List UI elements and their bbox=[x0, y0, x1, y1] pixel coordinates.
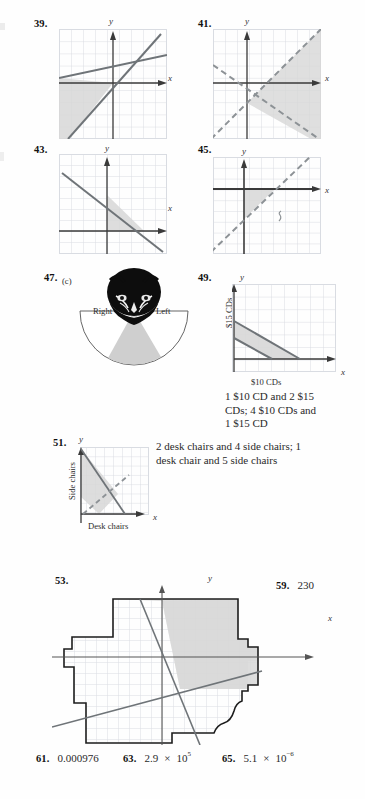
answer-65-base: 10 bbox=[275, 752, 286, 764]
exercise-number-39: 39. bbox=[34, 18, 47, 29]
graph-49 bbox=[232, 284, 336, 372]
label-right-47: Right bbox=[93, 306, 112, 316]
axis-label-x-45: x bbox=[325, 185, 329, 195]
axis-label-x-41: x bbox=[325, 73, 329, 83]
axis-label-x-53: x bbox=[328, 613, 332, 623]
exercise-number-45: 45. bbox=[198, 144, 211, 155]
label-left-47: Left bbox=[156, 306, 170, 316]
answer-63-mantissa: 2.9 bbox=[144, 752, 158, 764]
answer-49-line2: CDs; 4 $10 CDs and bbox=[225, 404, 360, 418]
answer-51-line1: 2 desk chairs and 4 side chairs; 1 bbox=[156, 440, 362, 454]
exercise-number-51: 51. bbox=[53, 437, 66, 448]
multiplication-sign-63: × bbox=[164, 752, 170, 764]
answer-51-line2: desk chair and 5 side chairs bbox=[156, 454, 362, 468]
exercise-number-43: 43. bbox=[34, 144, 47, 155]
multiplication-sign-65: × bbox=[263, 752, 269, 764]
axis-label-x-39: x bbox=[168, 73, 172, 83]
exercise-number-65: 65. bbox=[222, 753, 235, 764]
exercise-59: 59. 230 bbox=[276, 575, 314, 593]
exercise-number-61: 61. bbox=[36, 753, 49, 764]
y-caption-51: Side chairs bbox=[67, 462, 77, 500]
x-caption-49: $10 CDs bbox=[251, 377, 281, 387]
edge-mark-top bbox=[0, 23, 5, 30]
x-caption-51: Desk chairs bbox=[88, 521, 128, 531]
axis-label-y-53: y bbox=[208, 573, 212, 583]
answer-49-line3: 1 $15 CD bbox=[225, 417, 360, 431]
graph-39 bbox=[59, 29, 167, 139]
exercise-number-41: 41. bbox=[198, 18, 211, 29]
axis-label-y-41: y bbox=[245, 16, 249, 26]
axis-label-y-39: y bbox=[109, 16, 113, 26]
exercise-number-63: 63. bbox=[123, 753, 136, 764]
edge-mark-middle bbox=[0, 152, 4, 161]
axis-label-y-45: y bbox=[242, 146, 246, 156]
answer-49-line1: 1 $10 CD and 2 $15 bbox=[225, 390, 360, 404]
answer-65-mantissa: 5.1 bbox=[243, 752, 257, 764]
graph-41 bbox=[213, 29, 321, 139]
answer-51: 2 desk chairs and 4 side chairs; 1 desk … bbox=[156, 440, 362, 467]
axis-label-x-51: x bbox=[153, 512, 157, 522]
exercise-number-47: 47. bbox=[44, 272, 57, 283]
exercise-61: 61. 0.000976 bbox=[36, 748, 99, 766]
axis-label-x-49: x bbox=[341, 367, 345, 377]
graph-53 bbox=[52, 585, 314, 745]
answer-49: 1 $10 CD and 2 $15 CDs; 4 $10 CDs and 1 … bbox=[225, 390, 360, 431]
exercise-63: 63. 2.9 × 105 bbox=[123, 748, 191, 766]
axis-label-y-51: y bbox=[79, 434, 83, 444]
answer-key-page: 39. y x 41. y x bbox=[0, 0, 365, 799]
graph-45 bbox=[213, 157, 321, 254]
answer-65-exponent: −6 bbox=[286, 750, 293, 758]
exercise-65: 65. 5.1 × 10−6 bbox=[222, 748, 294, 766]
graph-51 bbox=[77, 447, 149, 523]
exercise-number-49: 49. bbox=[198, 272, 211, 283]
answer-63-base: 10 bbox=[176, 752, 187, 764]
axis-label-y-43: y bbox=[105, 143, 109, 153]
figure-47-owl-vision bbox=[72, 268, 197, 376]
exercise-number-59: 59. bbox=[276, 580, 289, 591]
answer-59: 230 bbox=[297, 579, 314, 591]
graph-43 bbox=[59, 154, 167, 254]
exercise-part-47c: (c) bbox=[62, 276, 72, 286]
axis-label-y-49: y bbox=[240, 272, 244, 282]
answer-63-exponent: 5 bbox=[187, 750, 191, 758]
answer-61: 0.000976 bbox=[57, 752, 98, 764]
axis-label-x-43: x bbox=[168, 203, 172, 213]
